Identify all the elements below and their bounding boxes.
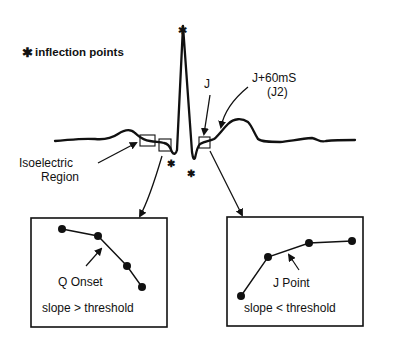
q-onset-zoom-arrow <box>140 156 162 216</box>
sample-point <box>305 239 313 247</box>
j2-label-text: (J2) <box>267 85 288 99</box>
region-label: Region <box>41 170 79 184</box>
s-asterisk-icon: ✱ <box>187 168 196 179</box>
j-point-zoom-arrow <box>210 151 242 215</box>
r-peak-asterisk-icon: ✱ <box>178 24 187 36</box>
sample-point <box>123 262 131 270</box>
j60-label: J+60mS <box>252 71 296 85</box>
sample-point <box>348 237 356 245</box>
isoelectric-label: Isoelectric <box>19 156 73 170</box>
q-onset-pointer-arrow <box>86 249 101 266</box>
legend-text: inflection points <box>35 46 124 58</box>
j-point-pointer-arrow <box>289 255 299 270</box>
q-asterisk-icon: ✱ <box>167 158 176 169</box>
sample-point <box>94 232 102 240</box>
ecg-diagram: ✱ inflection points ✱ ✱ ✱ J J+60mS (J2) … <box>0 0 397 343</box>
isoelectric-arrow <box>98 143 136 163</box>
sample-point <box>58 225 66 233</box>
q-onset-panel: Q Onset slope > threshold <box>31 218 167 327</box>
j-arrow <box>204 95 210 134</box>
sample-point <box>138 283 146 291</box>
j-label: J <box>204 77 210 91</box>
sample-point <box>237 292 245 300</box>
j-point-label: J Point <box>273 276 310 290</box>
legend: ✱ inflection points <box>22 45 124 60</box>
q-onset-label: Q Onset <box>58 275 103 289</box>
sample-point <box>264 253 272 261</box>
q-onset-rule: slope > threshold <box>42 301 134 315</box>
asterisk-icon: ✱ <box>22 45 33 60</box>
j-point-rule: slope < threshold <box>244 301 336 315</box>
j-point-panel: J Point slope < threshold <box>227 217 363 326</box>
